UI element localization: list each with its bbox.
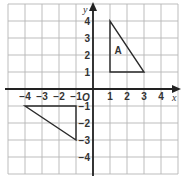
x-tick-label: −4 [19,91,31,102]
y-tick-label: −2 [79,118,91,129]
x-tick-label: 1 [107,91,113,102]
y-tick-label: −4 [79,152,91,163]
y-tick-label: 1 [84,67,90,78]
x-tick-label: 2 [124,91,130,102]
y-axis-label: y [82,4,88,15]
x-tick-label: −2 [53,91,65,102]
coordinate-grid: x y O −4−3−2−112344321−1−2−3−4 A [0,0,182,176]
x-tick-label: 3 [141,91,147,102]
y-tick-label: −3 [79,135,91,146]
y-tick-label: 4 [84,16,90,27]
x-tick-label: 4 [158,91,164,102]
y-tick-label: −1 [79,101,91,112]
triangle-label: A [115,45,122,56]
x-axis-label: x [171,92,177,103]
y-tick-label: 3 [84,33,90,44]
y-axis-arrow-icon [89,2,97,11]
x-tick-label: −3 [36,91,48,102]
y-tick-label: 2 [84,50,90,61]
